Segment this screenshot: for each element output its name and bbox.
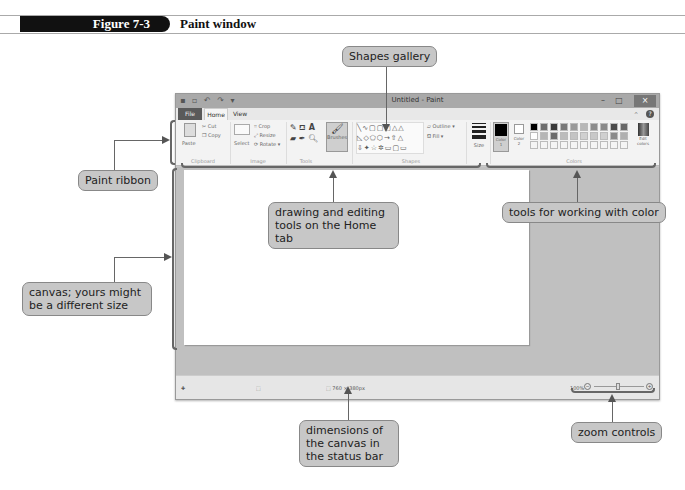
palette-swatch[interactable] xyxy=(570,132,578,140)
palette-swatch-empty[interactable] xyxy=(580,141,588,149)
palette-swatch[interactable] xyxy=(600,123,608,131)
palette-swatch[interactable] xyxy=(530,132,538,140)
callout-line xyxy=(114,257,166,258)
close-button[interactable]: × xyxy=(634,95,656,107)
select-button[interactable]: Select xyxy=(234,140,249,146)
palette-swatch-empty[interactable] xyxy=(540,141,548,149)
palette-swatch[interactable] xyxy=(550,132,558,140)
pencil-icon[interactable]: ✎ xyxy=(290,123,297,132)
palette-swatch[interactable] xyxy=(540,132,548,140)
palette-swatch-empty[interactable] xyxy=(560,141,568,149)
palette-swatch-empty[interactable] xyxy=(570,141,578,149)
arrow-right-icon xyxy=(162,136,170,144)
callout-line xyxy=(114,257,115,282)
edit-colors-button[interactable]: Edit colors xyxy=(634,123,652,153)
color-picker-icon[interactable]: ✒ xyxy=(299,134,306,143)
palette-swatch[interactable] xyxy=(570,123,578,131)
palette-swatch[interactable] xyxy=(610,132,618,140)
palette-swatch-empty[interactable] xyxy=(610,141,618,149)
separator xyxy=(466,122,467,164)
cut-button[interactable]: ✂ Cut xyxy=(202,123,216,129)
minimize-ribbon-icon[interactable]: ^ xyxy=(634,111,638,117)
size-button[interactable]: Size xyxy=(472,123,486,148)
help-icon[interactable]: ? xyxy=(646,110,654,118)
brushes-button[interactable]: 🖌︎ Brushes xyxy=(326,122,348,152)
selection-size-icon: ⬚ xyxy=(256,385,261,391)
resize-button[interactable]: ⤢ Resize xyxy=(254,132,276,139)
figure-bottom-rule xyxy=(0,33,685,34)
fill-bucket-icon: ⛾ xyxy=(427,133,431,139)
rotate-button[interactable]: ⟳ Rotate ▾ xyxy=(254,141,280,147)
work-area xyxy=(176,167,659,375)
palette-swatch-empty[interactable] xyxy=(600,141,608,149)
palette-swatch[interactable] xyxy=(620,123,628,131)
palette-swatch[interactable] xyxy=(600,132,608,140)
palette-swatch[interactable] xyxy=(620,132,628,140)
figure-number: Figure 7-3 xyxy=(20,16,170,32)
palette-swatch[interactable] xyxy=(590,132,598,140)
arrow-up-icon xyxy=(573,170,581,178)
tab-view[interactable]: View xyxy=(230,108,250,120)
color2-button[interactable]: Color 2 xyxy=(512,122,526,152)
shapes-gallery[interactable]: ╲∿▢▢▢△△ ◺◇⬠⬡→⇧△ ⇩✦☆✲▭▢▭ xyxy=(356,122,424,154)
palette-swatch[interactable] xyxy=(580,132,588,140)
text-icon[interactable]: A xyxy=(309,123,315,132)
tab-file[interactable]: File xyxy=(178,108,202,120)
arrow-up-icon xyxy=(608,394,616,402)
palette-swatch-empty[interactable] xyxy=(590,141,598,149)
edit-colors-icon xyxy=(638,123,649,136)
color-tools-bracket xyxy=(486,163,656,168)
arrow-up-icon xyxy=(329,170,337,178)
palette-swatch[interactable] xyxy=(590,123,598,131)
shape-outline-button[interactable]: ▱ Outline ▾ xyxy=(427,123,455,129)
canvas-bracket xyxy=(172,168,177,350)
palette-swatch[interactable] xyxy=(540,123,548,131)
callout-line xyxy=(114,140,164,141)
brush-icon: 🖌︎ xyxy=(327,123,347,134)
crop-button[interactable]: ⌗ Crop xyxy=(254,123,270,130)
magnifier-icon[interactable]: 🔍︎ xyxy=(308,134,318,143)
color2-swatch xyxy=(514,124,524,134)
palette-swatch-empty[interactable] xyxy=(530,141,538,149)
ribbon-tabs: File Home View ^ ? xyxy=(176,108,659,120)
tab-home[interactable]: Home xyxy=(204,108,228,120)
callout-canvas-dimensions: dimensions of the canvas in the status b… xyxy=(299,420,399,467)
palette-swatch-empty[interactable] xyxy=(620,141,628,149)
palette-swatch[interactable] xyxy=(610,123,618,131)
separator xyxy=(490,122,491,164)
title-bar: ▪ ▫ ↶ ↷ ▾ Untitled - Paint – □ × xyxy=(176,94,659,108)
palette-swatch[interactable] xyxy=(530,123,538,131)
color1-swatch xyxy=(495,124,507,136)
ribbon: Paste ✂ Cut ❐ Copy Clipboard Select ⌗ Cr… xyxy=(176,120,659,166)
callout-paint-ribbon: Paint ribbon xyxy=(78,170,158,191)
fill-icon[interactable]: ⛾ xyxy=(299,123,306,132)
arrow-right-icon xyxy=(164,253,172,261)
palette-swatch[interactable] xyxy=(560,132,568,140)
select-icon[interactable] xyxy=(234,124,250,135)
paste-button[interactable]: Paste xyxy=(182,140,196,146)
figure-title: Paint window xyxy=(180,16,256,32)
shape-fill-button[interactable]: ⛾ Fill ▾ xyxy=(427,133,443,140)
paste-icon[interactable] xyxy=(184,123,196,137)
canvas[interactable] xyxy=(184,170,529,345)
callout-canvas: canvas; yours might be a different size xyxy=(22,282,152,316)
resize-icon: ⤢ xyxy=(254,132,258,138)
palette-swatch-empty[interactable] xyxy=(550,141,558,149)
tools-row-1: ✎ ⛾ A xyxy=(290,123,315,133)
callout-line xyxy=(114,140,115,170)
palette-swatch[interactable] xyxy=(580,123,588,131)
window-title: Untitled - Paint xyxy=(176,96,659,104)
copy-icon: ❐ xyxy=(202,132,206,138)
callout-color-tools: tools for working with color xyxy=(502,202,666,223)
palette-swatch[interactable] xyxy=(560,123,568,131)
ribbon-bracket xyxy=(170,120,175,165)
palette-swatch[interactable] xyxy=(550,123,558,131)
callout-line xyxy=(577,178,578,202)
maximize-button[interactable]: □ xyxy=(612,95,626,107)
copy-button[interactable]: ❐ Copy xyxy=(202,132,221,138)
color1-button[interactable]: Color 1 xyxy=(493,122,509,152)
eraser-icon[interactable]: ▰ xyxy=(290,134,296,143)
status-bar: ✚ ⬚ ⬚ 760 × 380px 100% − + xyxy=(176,375,659,399)
callout-line xyxy=(333,178,334,202)
minimize-button[interactable]: – xyxy=(596,95,610,107)
